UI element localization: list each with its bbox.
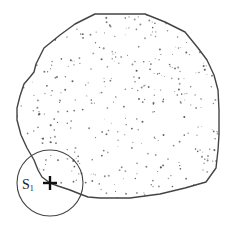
sensor-label-subscript: 1 — [30, 184, 34, 193]
region-boundary — [17, 14, 219, 198]
sensor-label: S1 — [22, 176, 34, 192]
sensor-cross-icon — [43, 176, 57, 190]
diagram-canvas: S1 — [0, 0, 230, 231]
stipple-dots — [15, 11, 221, 199]
sensor-label-main: S — [22, 177, 30, 192]
region-diagram — [0, 0, 230, 231]
